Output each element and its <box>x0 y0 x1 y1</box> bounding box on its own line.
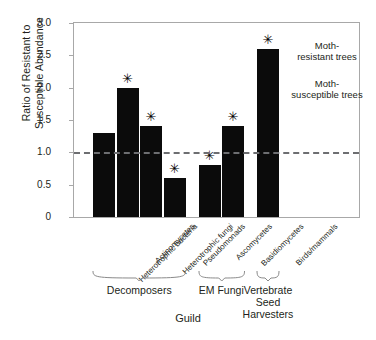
annotation-moth-susceptible-line-1: Moth- <box>281 78 373 89</box>
significance-asterisk: ✳ <box>257 33 279 46</box>
significance-asterisk: ✳ <box>140 110 162 123</box>
y-axis-tick <box>69 185 74 186</box>
y-axis-tick-label: 2.5 <box>21 49 51 60</box>
significance-asterisk: ✳ <box>222 110 244 123</box>
y-axis-tick-label: 0 <box>21 211 51 222</box>
group-brace <box>198 271 246 282</box>
bar <box>199 165 221 217</box>
group-brace <box>256 271 280 282</box>
y-axis-tick-label: 2.0 <box>21 82 51 93</box>
annotation-moth-susceptible-line-2: susceptible trees <box>281 89 373 100</box>
annotation-moth-resistant-line-1: Moth- <box>281 40 373 51</box>
x-axis-title: Guild <box>0 312 376 324</box>
y-axis-tick <box>69 88 74 89</box>
bar <box>164 178 186 217</box>
group-brace <box>92 271 187 282</box>
x-axis-category-label: Actinomycetes <box>153 222 196 265</box>
y-axis-tick <box>69 217 74 218</box>
y-axis-tick-label: 3.0 <box>21 17 51 28</box>
bar <box>93 133 115 217</box>
y-axis-tick-label: 0.5 <box>21 179 51 190</box>
bar <box>140 126 162 217</box>
annotation-moth-susceptible: Moth- susceptible trees <box>281 78 373 100</box>
significance-asterisk: ✳ <box>117 72 139 85</box>
bar <box>222 126 244 217</box>
significance-asterisk: ✳ <box>199 149 221 162</box>
annotation-moth-resistant: Moth- resistant trees <box>281 40 373 62</box>
bar <box>257 49 279 217</box>
y-axis-tick <box>69 120 74 121</box>
y-axis-tick <box>69 55 74 56</box>
significance-asterisk: ✳ <box>164 162 186 175</box>
reference-line <box>74 152 359 154</box>
y-axis-tick-label: 1.0 <box>21 146 51 157</box>
group-label-line: Vertebrate <box>231 284 305 296</box>
y-axis-tick <box>69 23 74 24</box>
annotation-moth-resistant-line-2: resistant trees <box>281 51 373 62</box>
bar-chart-figure: Ratio of Resistant to Susceptible Abunda… <box>0 0 376 340</box>
y-axis-tick-label: 1.5 <box>21 114 51 125</box>
